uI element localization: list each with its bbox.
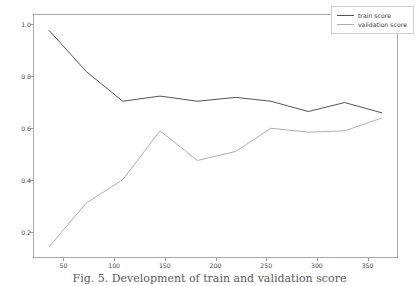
legend-label-validation-score: validation score: [358, 21, 407, 28]
y-tick-label: 0.8: [0, 73, 31, 80]
x-tick-label: 100: [108, 262, 120, 269]
legend-item-validation-score: validation score: [337, 20, 407, 29]
chart-legend: train score validation score: [331, 6, 414, 34]
y-tick-label: 0.6: [0, 125, 31, 132]
y-tick-label: 1.0: [0, 21, 31, 28]
x-tick-mark: [216, 258, 217, 261]
legend-label-train-score: train score: [358, 12, 391, 19]
x-tick-label: 350: [362, 262, 374, 269]
chart-svg: [34, 15, 397, 257]
x-tick-label: 200: [210, 262, 222, 269]
y-tick-mark: [30, 128, 33, 129]
x-tick-mark: [368, 258, 369, 261]
legend-swatch-train-score: [337, 15, 354, 16]
x-tick-mark: [317, 258, 318, 261]
y-tick-label: 0.4: [0, 177, 31, 184]
x-tick-label: 50: [59, 262, 67, 269]
x-tick-mark: [165, 258, 166, 261]
x-tick-mark: [114, 258, 115, 261]
x-tick-mark: [63, 258, 64, 261]
y-tick-label: 0.2: [0, 229, 31, 236]
x-tick-mark: [266, 258, 267, 261]
line-series-train-score: [49, 30, 382, 112]
x-tick-label: 250: [260, 262, 272, 269]
figure-container: 0.20.40.60.81.0 50100150200250300350 tra…: [0, 0, 419, 286]
figure-caption: Fig. 5. Development of train and validat…: [0, 272, 419, 285]
y-tick-mark: [30, 24, 33, 25]
y-tick-mark: [30, 180, 33, 181]
x-tick-label: 150: [159, 262, 171, 269]
legend-swatch-validation-score: [337, 24, 354, 25]
line-series-validation-score: [49, 118, 382, 247]
x-tick-label: 300: [311, 262, 323, 269]
plot-area: [33, 14, 398, 258]
y-tick-mark: [30, 232, 33, 233]
legend-item-train-score: train score: [337, 11, 407, 20]
y-tick-mark: [30, 76, 33, 77]
